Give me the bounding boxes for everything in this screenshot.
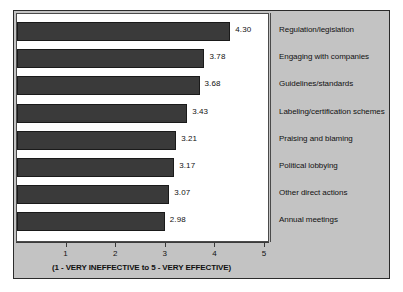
bar-value-label: 3.21 xyxy=(181,134,197,143)
x-tick-label: 4 xyxy=(207,249,221,258)
bar-row: 3.68 xyxy=(17,76,266,95)
x-tick-label: 2 xyxy=(108,249,122,258)
bar-value-label: 2.98 xyxy=(170,215,186,224)
plot-area: 4.303.783.683.433.213.173.072.98 xyxy=(16,13,269,242)
x-tick-label: 3 xyxy=(158,249,172,258)
category-label: Labeling/certification schemes xyxy=(279,107,385,116)
x-tick-mark xyxy=(214,242,215,247)
category-label: Political lobbying xyxy=(279,161,338,170)
bar-value-label: 3.17 xyxy=(179,161,195,170)
bar xyxy=(17,158,174,177)
category-legend-panel: Regulation/legislationEngaging with comp… xyxy=(270,13,389,242)
bar-value-label: 4.30 xyxy=(235,25,251,34)
bar-row: 3.78 xyxy=(17,49,266,68)
x-tick-mark xyxy=(115,242,116,247)
bar xyxy=(17,185,169,204)
bar-row: 3.43 xyxy=(17,104,266,123)
bar xyxy=(17,131,176,150)
x-tick-label: 1 xyxy=(59,249,73,258)
bar-row: 3.21 xyxy=(17,131,266,150)
category-label: Engaging with companies xyxy=(279,52,369,61)
x-axis-caption: (1 - VERY INEFFECTIVE to 5 - VERY EFFECT… xyxy=(14,263,269,272)
bar-value-label: 3.43 xyxy=(192,107,208,116)
bar xyxy=(17,76,200,95)
x-tick-mark xyxy=(66,242,67,247)
bar xyxy=(17,22,230,41)
bar xyxy=(17,104,187,123)
x-axis-line xyxy=(16,242,269,243)
category-label: Guidelines/standards xyxy=(279,79,353,88)
bar-row: 3.17 xyxy=(17,158,266,177)
bar xyxy=(17,49,204,68)
bar-value-label: 3.07 xyxy=(174,188,190,197)
bar-row: 2.98 xyxy=(17,212,266,231)
bar xyxy=(17,212,165,231)
bar-row: 4.30 xyxy=(17,22,266,41)
x-tick-label: 5 xyxy=(257,249,271,258)
category-label: Regulation/legislation xyxy=(279,25,354,34)
chart-figure: 4.303.783.683.433.213.173.072.98 12345 (… xyxy=(13,10,390,279)
category-label: Other direct actions xyxy=(279,188,347,197)
bar-value-label: 3.68 xyxy=(205,79,221,88)
category-label: Praising and blaming xyxy=(279,134,353,143)
bar-row: 3.07 xyxy=(17,185,266,204)
category-label: Annual meetings xyxy=(279,215,338,224)
x-tick-mark xyxy=(165,242,166,247)
bar-value-label: 3.78 xyxy=(209,52,225,61)
x-tick-mark xyxy=(264,242,265,247)
